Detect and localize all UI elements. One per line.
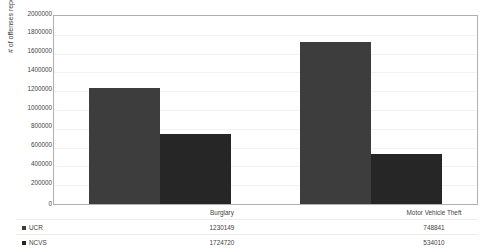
table-cell-ucr-motor-vehicle-theft: 748841 [328,220,491,235]
chart-data-table: Burglary Motor Vehicle Theft UCR 1230149… [16,205,478,250]
y-axis-tick-labels: 2000000180000016000001400000120000010000… [16,13,52,205]
legend-item-ncvs: NCVS [16,235,116,250]
plot-area [53,15,478,205]
y-axis-tick-400000: 400000 [16,160,52,167]
table-row-ucr: UCR 1230149 748841 [16,220,478,235]
y-axis-tick-1800000: 1800000 [16,28,52,35]
legend-label-ucr: UCR [29,224,43,231]
table-row-ncvs: NCVS 1724720 534010 [16,235,478,250]
table-cell-ncvs-burglary: 1724720 [116,235,328,250]
bar-ncvs-motor-vehicle-theft [371,154,442,204]
legend-item-ucr: UCR [16,220,116,235]
y-axis-tick-1200000: 1200000 [16,85,52,92]
y-axis-tick-800000: 800000 [16,122,52,129]
legend-label-ncvs: NCVS [29,239,47,246]
table-cell-ucr-burglary: 1230149 [116,220,328,235]
bar-ncvs-burglary [160,134,231,204]
legend-swatch-icon-ucr [22,226,26,230]
y-axis-tick-1000000: 1000000 [16,104,52,111]
table-cell-ncvs-motor-vehicle-theft: 534010 [328,235,491,250]
table-header-row: Burglary Motor Vehicle Theft [16,205,478,220]
table-header-motor-vehicle-theft: Motor Vehicle Theft [328,205,491,220]
bar-chart: # of offenses reported 20000001800000160… [0,0,491,252]
y-axis-tick-200000: 200000 [16,179,52,186]
y-axis-tick-1600000: 1600000 [16,47,52,54]
bar-ucr-motor-vehicle-theft [300,42,371,204]
legend-swatch-icon-ncvs [22,241,26,245]
bars-layer [54,16,477,204]
y-axis-tick-600000: 600000 [16,141,52,148]
y-axis-tick-1400000: 1400000 [16,66,52,73]
bar-ucr-burglary [89,88,160,204]
y-axis-tick-2000000: 2000000 [16,10,52,17]
table-header-blank-cell [16,205,116,220]
table-header-burglary: Burglary [116,205,328,220]
